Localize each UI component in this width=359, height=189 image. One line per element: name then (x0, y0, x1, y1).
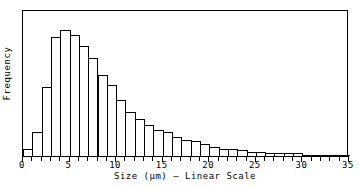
x-axis-minor-tick (143, 156, 144, 161)
x-axis-minor-tick (218, 156, 219, 161)
x-axis-tick-label: 10 (109, 160, 121, 170)
x-axis-minor-tick (264, 156, 265, 161)
histogram-figure: Frequency 05101520253035 Size (μm) – Lin… (0, 0, 359, 189)
x-axis-minor-tick (311, 156, 312, 161)
x-axis-minor-tick (283, 156, 284, 161)
x-axis-minor-tick (199, 156, 200, 161)
x-axis-minor-tick (152, 156, 153, 161)
x-axis-minor-tick (106, 156, 107, 161)
x-axis-minor-tick (190, 156, 191, 161)
x-axis-minor-tick (31, 156, 32, 161)
plot-area (22, 10, 348, 157)
x-axis-tick-label: 15 (156, 160, 168, 170)
y-axis-label: Frequency (0, 0, 14, 147)
x-axis-minor-tick (87, 156, 88, 161)
x-axis-minor-tick (134, 156, 135, 161)
x-axis-minor-tick (50, 156, 51, 161)
x-axis-minor-tick (227, 156, 228, 161)
x-axis-minor-tick (236, 156, 237, 161)
histogram-bars (23, 11, 347, 156)
x-axis-tick-label: 20 (202, 160, 214, 170)
x-axis-minor-tick (273, 156, 274, 161)
x-axis-minor-tick (329, 156, 330, 161)
x-axis-minor-tick (41, 156, 42, 161)
x-axis-tick-label: 35 (342, 160, 354, 170)
x-axis-minor-tick (180, 156, 181, 161)
x-axis-minor-tick (97, 156, 98, 161)
x-axis-tick-label: 0 (19, 160, 25, 170)
x-axis-minor-tick (124, 156, 125, 161)
x-axis-tick-label: 5 (66, 160, 72, 170)
x-axis-minor-tick (320, 156, 321, 161)
x-axis-tick-label: 25 (249, 160, 261, 170)
x-axis-label: Size (μm) – Linear Scale (22, 171, 348, 181)
x-axis-minor-tick (59, 156, 60, 161)
x-axis-minor-tick (171, 156, 172, 161)
x-axis-tick-label: 30 (296, 160, 308, 170)
y-axis-label-text: Frequency (2, 46, 12, 100)
x-axis-minor-tick (292, 156, 293, 161)
x-axis-minor-tick (78, 156, 79, 161)
x-axis-minor-tick (246, 156, 247, 161)
x-axis-minor-tick (339, 156, 340, 161)
